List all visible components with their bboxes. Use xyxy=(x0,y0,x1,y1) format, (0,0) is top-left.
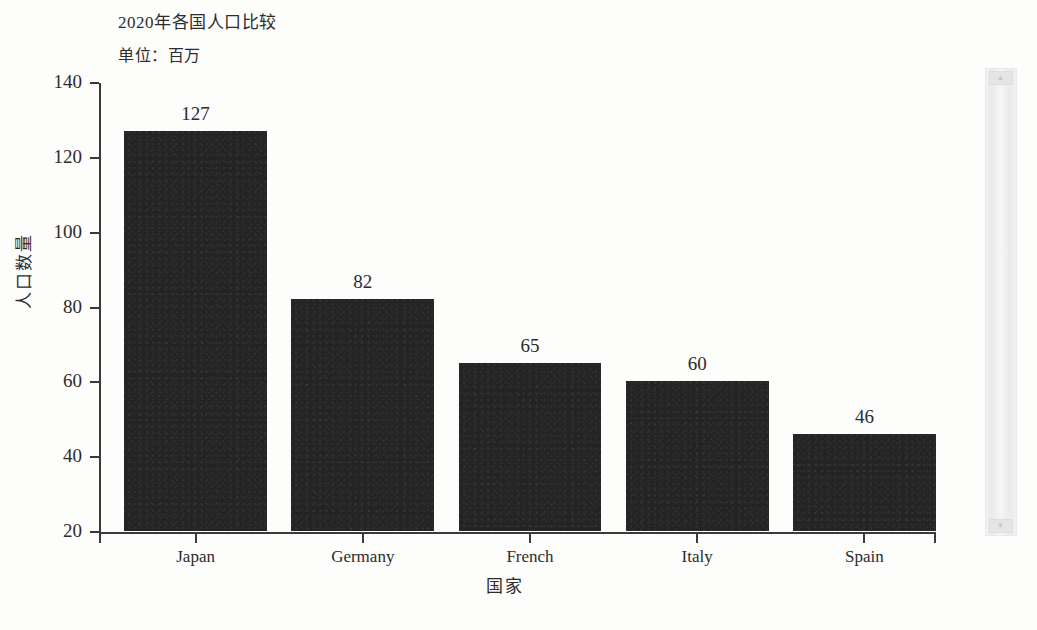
y-axis-tick: 140 xyxy=(90,82,99,84)
x-axis-tick xyxy=(934,534,936,543)
chart-title: 2020年各国人口比较 xyxy=(118,8,277,33)
y-axis-tick: 20 xyxy=(90,531,99,533)
x-axis-category-label: Spain xyxy=(781,547,948,567)
y-axis-tick-label: 40 xyxy=(63,445,82,467)
x-axis-category-label: French xyxy=(446,547,613,567)
bar-value-label: 82 xyxy=(291,271,434,293)
x-axis-label: 国家 xyxy=(0,572,1010,597)
x-axis-tick xyxy=(99,534,101,543)
x-axis-tick xyxy=(529,534,531,543)
bar-value-label: 46 xyxy=(793,406,936,428)
y-axis-tick: 120 xyxy=(90,157,99,159)
chart-page: 2020年各国人口比较 单位：百万 人口数量 国家 14012010080604… xyxy=(0,0,1037,630)
bar-value-label: 65 xyxy=(459,335,602,357)
x-axis-category-label: Germany xyxy=(279,547,446,567)
chart-subtitle-units: 单位：百万 xyxy=(118,42,201,66)
scan-edge-artifact: ▲ ▼ xyxy=(985,68,1017,536)
y-axis-tick-label: 20 xyxy=(63,520,82,542)
y-axis-tick-label: 60 xyxy=(63,370,82,392)
x-axis-category-label: Japan xyxy=(112,547,279,567)
y-axis-tick-label: 120 xyxy=(54,146,83,168)
bar: 65 xyxy=(459,363,602,531)
y-axis-tick: 80 xyxy=(90,307,99,309)
y-axis-label: 人口数量 xyxy=(10,231,35,311)
y-axis-tick: 40 xyxy=(90,456,99,458)
y-axis-tick-label: 100 xyxy=(54,221,83,243)
scroll-down-arrow-icon: ▼ xyxy=(989,519,1013,533)
y-axis-tick: 100 xyxy=(90,232,99,234)
bar-value-label: 60 xyxy=(626,353,769,375)
bar: 127 xyxy=(124,131,267,531)
x-axis-tick xyxy=(195,534,197,543)
y-axis-tick: 60 xyxy=(90,381,99,383)
bar: 82 xyxy=(291,299,434,531)
bar: 60 xyxy=(626,381,769,531)
bar: 46 xyxy=(793,434,936,531)
scroll-up-arrow-icon: ▲ xyxy=(989,71,1013,85)
x-axis-tick xyxy=(362,534,364,543)
x-axis-tick xyxy=(696,534,698,543)
x-axis-tick xyxy=(863,534,865,543)
x-axis-line xyxy=(99,532,936,534)
y-axis-line xyxy=(99,83,101,533)
plot-area: 14012010080604020 JapanGermanyFrenchItal… xyxy=(99,83,935,532)
x-axis-category-label: Italy xyxy=(614,547,781,567)
y-axis-tick-label: 140 xyxy=(54,71,83,93)
y-axis-tick-label: 80 xyxy=(63,296,82,318)
bar-value-label: 127 xyxy=(124,103,267,125)
